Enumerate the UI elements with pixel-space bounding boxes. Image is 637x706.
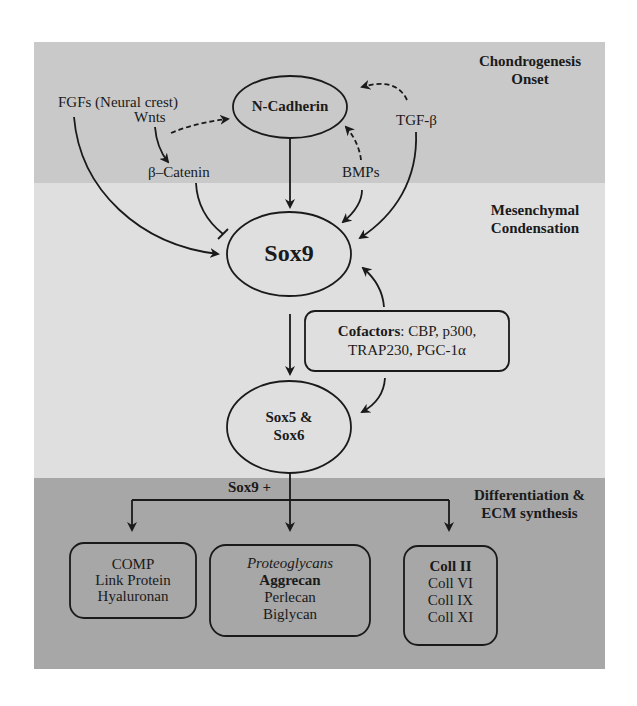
sox9-label: Sox9 — [227, 240, 351, 267]
signal-bmps: BMPs — [342, 164, 380, 181]
stage-label-condensation: Mesenchymal Condensation — [460, 201, 610, 237]
sox5-sox6-label: Sox5 & Sox6 — [227, 408, 351, 444]
arrow-wnts-ncadherin — [171, 119, 228, 133]
arrow-bmps-sox9 — [343, 190, 362, 222]
arrow-wnts-betacatenin — [155, 127, 168, 162]
branch-label: Sox9 + — [228, 479, 271, 496]
inhibit-betacatenin-sox9 — [196, 183, 223, 234]
signal-beta-catenin: β–Catenin — [148, 164, 210, 181]
stage-label-differentiation: Differentiation & ECM synthesis — [452, 486, 607, 522]
arrow-bmps-ncadherin — [346, 127, 361, 160]
signal-wnts: Wnts — [134, 109, 166, 126]
signal-tgf-beta: TGF-β — [396, 112, 437, 129]
cofactors-text: Cofactors: CBP, p300, TRAP230, PGC-1α — [305, 322, 509, 360]
arrow-tgfb-ncadherin — [362, 84, 407, 100]
arrow-cofactors-sox9 — [363, 268, 384, 307]
stage-label-onset: Chondrogenesis Onset — [455, 52, 605, 88]
target-comp-text: COMP Link Protein Hyaluronan — [70, 556, 196, 604]
arrow-cofactors-sox56 — [362, 378, 385, 412]
target-collagens-text: Coll II Coll VI Coll IX Coll XI — [404, 558, 497, 626]
arrow-tgfb-sox9 — [360, 132, 416, 238]
n-cadherin-label: N-Cadherin — [233, 98, 347, 115]
target-proteoglycans-text: Proteoglycans Aggrecan Perlecan Biglycan — [210, 555, 370, 623]
